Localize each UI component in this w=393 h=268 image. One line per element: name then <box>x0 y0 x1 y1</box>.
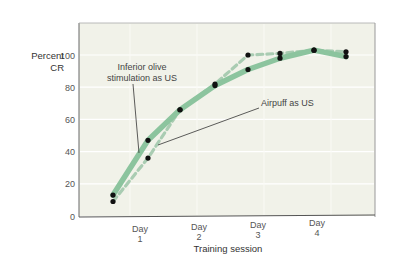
x-tick-day-1: Day1 <box>132 224 149 244</box>
data-point <box>277 56 282 61</box>
svg-text:Day: Day <box>132 224 149 234</box>
y-tick-0: 0 <box>70 212 75 222</box>
data-point <box>245 52 250 57</box>
data-point <box>145 138 150 143</box>
data-point <box>212 81 217 86</box>
y-tick-labels: 020406080100 <box>60 51 75 222</box>
svg-text:4: 4 <box>314 228 319 238</box>
svg-text:Day: Day <box>250 220 267 230</box>
data-point <box>145 155 150 160</box>
svg-text:Day: Day <box>309 218 326 228</box>
svg-text:stimulation as US: stimulation as US <box>107 73 177 83</box>
x-tick-labels: Day1Day2Day3Day4 <box>132 218 326 244</box>
data-point <box>343 54 348 59</box>
annotation-airpuff: Airpuff as US <box>261 98 314 108</box>
x-axis-label: Training session <box>194 243 263 254</box>
y-tick-60: 60 <box>65 115 75 125</box>
x-tick-day-4: Day4 <box>309 218 326 238</box>
y-tick-80: 80 <box>65 83 75 93</box>
data-point <box>277 51 282 56</box>
line-chart: 020406080100 Percent CR Day1Day2Day3Day4… <box>0 0 393 268</box>
svg-text:Percent: Percent <box>31 50 64 61</box>
svg-text:Day: Day <box>191 222 208 232</box>
data-point <box>110 192 115 197</box>
data-point <box>110 199 115 204</box>
svg-text:CR: CR <box>50 62 64 73</box>
y-axis-label: Percent CR <box>31 50 64 73</box>
y-tick-40: 40 <box>65 147 75 157</box>
data-point <box>177 107 182 112</box>
svg-text:1: 1 <box>137 234 142 244</box>
data-point <box>311 48 316 53</box>
data-point <box>343 49 348 54</box>
y-tick-20: 20 <box>65 179 75 189</box>
x-tick-day-2: Day2 <box>191 222 208 242</box>
x-tick-day-3: Day3 <box>250 220 267 240</box>
data-point <box>245 67 250 72</box>
svg-text:Inferior olive: Inferior olive <box>117 62 166 72</box>
svg-text:3: 3 <box>255 230 260 240</box>
svg-text:2: 2 <box>196 232 201 242</box>
annotation-inferior-olive: Inferior olive stimulation as US <box>107 62 177 83</box>
